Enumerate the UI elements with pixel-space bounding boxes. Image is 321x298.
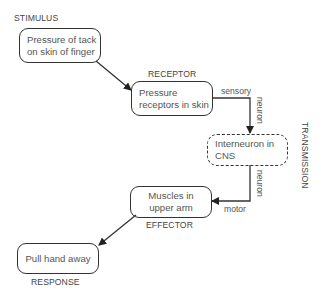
stimulus-text-line: on skin of finger [27,46,96,58]
arrow-motor-neuron [212,165,250,201]
interneuron-text-line: Interneuron in [215,138,274,150]
response-text-line: Pull hand away [25,253,90,265]
receptor-text-line: receptors in skin [139,99,209,111]
arrow-stimulus-to-receptor [96,61,131,90]
sensory-label: sensory [221,86,251,96]
receptor-text-line: Pressure [139,87,209,99]
arrow-sensory-neuron [212,98,250,133]
effector-text-line: upper arm [148,202,193,214]
effector-label: EFFECTOR [146,220,193,230]
response-box: Pull hand away [17,243,99,274]
interneuron-box: Interneuron in CNS [207,134,288,166]
stimulus-text-line: Pressure of tack [27,34,96,46]
stimulus-box: Pressure of tack on skin of finger [19,28,101,63]
receptor-label: RECEPTOR [148,69,196,79]
response-label: RESPONSE [31,277,80,287]
reflex-arc-diagram: STIMULUS Pressure of tack on skin of fin… [0,0,321,298]
motor-neuron-label: neuron [255,170,265,197]
stimulus-label: STIMULUS [14,13,58,23]
effector-text-line: Muscles in [148,190,193,202]
receptor-box: Pressure receptors in skin [131,81,213,116]
effector-box: Muscles in upper arm [130,186,212,218]
interneuron-text-line: CNS [215,150,274,162]
sensory-neuron-label: neuron [255,97,265,124]
arrow-effector-to-response [99,215,136,245]
transmission-label: TRANSMISSION [300,122,310,189]
motor-label: motor [224,204,246,214]
